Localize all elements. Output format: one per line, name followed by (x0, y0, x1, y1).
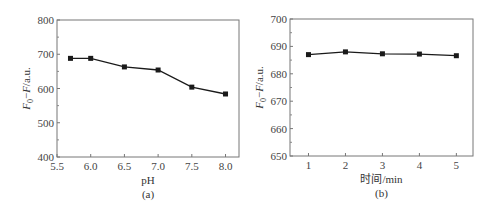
data-point-marker (306, 52, 311, 57)
y-tick-label: 600 (38, 83, 55, 95)
data-point-marker (223, 91, 228, 96)
chart-b-time: 65066067068069070012345时间/min(b)F0−F/a.u… (253, 13, 473, 200)
data-point-marker (156, 68, 161, 73)
x-tick-label: 7.5 (185, 160, 199, 172)
data-point-marker (122, 64, 127, 69)
y-tick-label: 660 (271, 123, 288, 135)
y-tick-label: 650 (271, 150, 288, 162)
y-tick-label: 700 (271, 13, 288, 25)
x-tick-label: 4 (417, 159, 423, 171)
x-tick-label: 6.5 (118, 160, 132, 172)
data-point-marker (189, 85, 194, 90)
y-tick-label: 690 (271, 40, 288, 52)
figure: 4005006007008005.56.06.57.07.58.0pH(a)F0… (0, 0, 497, 209)
x-tick-label: 8.0 (219, 160, 233, 172)
series-line (71, 58, 226, 94)
x-tick-label: 1 (306, 159, 312, 171)
chart-caption: (b) (375, 187, 388, 200)
x-tick-label: 2 (343, 159, 349, 171)
y-tick-label: 670 (271, 95, 288, 107)
chart-a-ph: 4005006007008005.56.06.57.07.58.0pH(a)F0… (20, 14, 239, 201)
x-tick-label: 7.0 (151, 160, 165, 172)
y-axis-label: F0−F/a.u. (20, 67, 35, 111)
x-tick-label: 3 (380, 159, 386, 171)
x-tick-label: 6.0 (84, 160, 98, 172)
y-tick-label: 500 (38, 117, 55, 129)
x-tick-label: 5.5 (50, 160, 64, 172)
data-point-marker (454, 53, 459, 58)
x-tick-label: 5 (454, 159, 460, 171)
x-axis-label: pH (141, 174, 155, 186)
y-tick-label: 800 (38, 14, 55, 26)
x-axis-label: 时间/min (360, 173, 403, 185)
data-point-marker (380, 51, 385, 56)
y-tick-label: 680 (271, 68, 288, 80)
y-tick-label: 700 (38, 48, 55, 60)
y-axis-label: F0−F/a.u. (253, 66, 268, 110)
data-point-marker (417, 52, 422, 57)
plot-frame (290, 19, 473, 156)
data-point-marker (88, 56, 93, 61)
plot-frame (57, 20, 239, 157)
chart-caption: (a) (142, 188, 155, 201)
data-point-marker (68, 56, 73, 61)
data-point-marker (343, 49, 348, 54)
